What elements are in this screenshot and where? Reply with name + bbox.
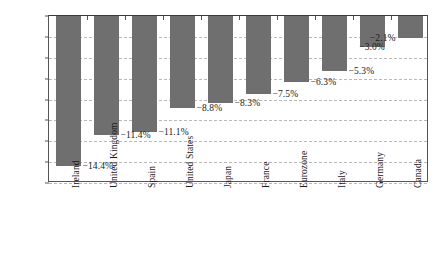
x-axis-tick-mark [87,16,88,20]
bar-value-label: −8.3% [235,98,261,108]
y-axis-tick-mark [45,36,49,37]
x-axis-tick-mark [391,16,392,20]
bar-value-label: −3.0% [359,42,385,52]
x-axis-tick-mark [239,16,240,20]
bar-value-label: −11.4% [121,130,151,140]
x-axis-category-label: Japan [223,166,233,188]
gridline [49,183,427,184]
y-axis-tick-mark [45,183,49,184]
x-axis-category-label: France [261,162,271,188]
plot-area: 0%−2%−4%−6%−8%−10%−12%−14%−16% −14.4%−11… [48,15,428,182]
y-axis-tick-mark [45,162,49,163]
gridline [49,141,427,142]
bar-value-label: −7.5% [273,89,299,99]
x-axis-tick-mark [201,16,202,20]
bar[interactable] [208,16,233,103]
y-axis-tick-mark [45,16,49,17]
bar-value-label: −2.1% [370,33,396,43]
bar[interactable] [322,16,347,71]
y-axis-tick-mark [45,57,49,58]
x-axis-category-label: United Kingdom [109,122,119,188]
y-axis-tick-mark [45,141,49,142]
bar[interactable] [132,16,157,132]
x-axis-tick-mark [353,16,354,20]
bar[interactable] [398,16,423,38]
x-axis-category-label: Ireland [71,160,81,188]
bar-value-label: −5.3% [349,66,375,76]
x-axis-category-label: Spain [147,166,157,188]
x-axis-tick-mark [277,16,278,20]
y-axis-tick-mark [45,78,49,79]
x-axis-category-label: Germany [375,152,385,188]
y-axis-tick-mark [45,99,49,100]
x-axis-tick-mark [163,16,164,20]
bar[interactable] [56,16,81,166]
bar[interactable] [94,16,119,135]
x-axis-tick-mark [315,16,316,20]
x-axis-category-label: Italy [337,170,347,188]
x-axis-category-label: Canada [413,159,423,188]
y-axis-tick-mark [45,120,49,121]
bar-chart: 0%−2%−4%−6%−8%−10%−12%−14%−16% −14.4%−11… [0,0,443,269]
bar-value-label: −8.8% [197,103,223,113]
bar[interactable] [170,16,195,108]
bar[interactable] [284,16,309,82]
bar[interactable] [246,16,271,94]
x-axis-category-label: United States [185,136,195,188]
x-axis-category-label: Eurozone [299,151,309,188]
x-axis-tick-mark [125,16,126,20]
bar-value-label: −6.3% [311,77,337,87]
